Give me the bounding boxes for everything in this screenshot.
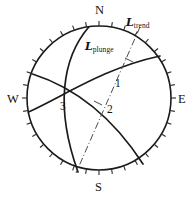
azimuth-tick (112, 22, 113, 27)
azimuth-tick (50, 153, 53, 157)
lineation-plunge-subscript: plunge (93, 45, 114, 54)
azimuth-tick (167, 123, 172, 125)
azimuth-tick (61, 31, 64, 35)
azimuth-tick (170, 85, 175, 86)
stereonet-canvas (0, 0, 194, 202)
azimuth-tick (23, 111, 28, 112)
azimuth-tick (73, 26, 75, 31)
azimuth-tick (145, 39, 148, 43)
azimuth-tick (112, 169, 113, 174)
azimuth-tick (154, 49, 158, 52)
azimuth-tick (23, 85, 28, 86)
azimuth-tick (50, 39, 53, 43)
cardinal-label-east: E (178, 93, 186, 106)
azimuth-tick (124, 166, 126, 171)
azimuth-tick (27, 123, 32, 125)
trend-plunge-tick (125, 58, 133, 62)
great-circle-3 (29, 56, 161, 112)
plane-number-1: 1 (115, 78, 121, 90)
azimuth-tick (170, 111, 175, 112)
cardinal-label-north: N (95, 4, 104, 17)
azimuth-tick (135, 160, 138, 164)
lineation-plunge-label: Lplunge (85, 41, 114, 53)
azimuth-tick (40, 49, 44, 52)
lineation-plunge-symbol: L (85, 40, 93, 53)
lineation-trend-label: Ltrend (126, 17, 150, 29)
azimuth-tick (86, 169, 87, 174)
trend-plunge-tick (94, 101, 102, 105)
cardinal-label-south: S (95, 181, 102, 194)
plane-number-2: 2 (107, 104, 113, 116)
cardinal-label-west: W (7, 93, 19, 106)
azimuth-tick (161, 60, 165, 63)
azimuth-tick (73, 166, 75, 171)
lineation-trend-subscript: trend (134, 21, 150, 30)
lineation-trend-symbol: L (126, 16, 134, 29)
stereonet-figure: N E S W Ltrend Lplunge 1 2 3 (0, 0, 194, 202)
azimuth-tick (145, 153, 148, 157)
azimuth-tick (161, 134, 165, 137)
azimuth-tick (27, 72, 32, 74)
azimuth-tick (86, 22, 87, 27)
azimuth-tick (32, 60, 36, 63)
azimuth-tick (61, 160, 64, 164)
azimuth-tick (32, 134, 36, 137)
azimuth-tick (40, 144, 44, 147)
azimuth-tick (135, 31, 138, 35)
azimuth-tick (167, 72, 172, 74)
plane-number-3: 3 (60, 101, 66, 113)
azimuth-tick (154, 144, 158, 147)
